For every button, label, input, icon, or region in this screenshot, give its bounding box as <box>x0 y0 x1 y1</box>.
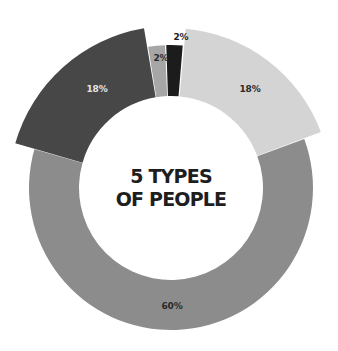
chart-title-line-1: 5 TYPES <box>130 165 212 188</box>
segment-value-label: 18% <box>87 84 108 94</box>
segment-value-label: 2% <box>174 32 189 42</box>
chart-title: 5 TYPES OF PEOPLE <box>81 96 261 280</box>
chart-title-line-2: OF PEOPLE <box>116 188 227 211</box>
segment-value-label: 18% <box>240 84 261 94</box>
segment-value-label: 60% <box>162 301 183 311</box>
segment-value-label: 2% <box>154 53 169 63</box>
